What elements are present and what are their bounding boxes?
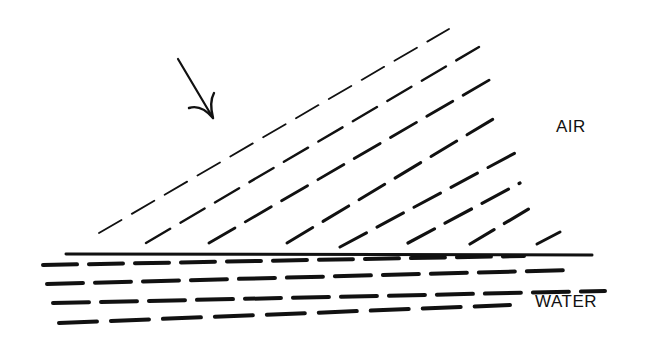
water-wavefront-4 [59,305,510,323]
incident-arrow-icon [178,59,214,118]
water-wavefront-1 [43,256,524,265]
air-wavefront-3 [209,79,491,243]
air-wavefront-8 [537,232,560,244]
air-wavefront-1 [99,29,449,233]
water-wavefront-2 [47,270,571,284]
air-wavefront-6 [408,183,520,243]
water-wavefront-3 [53,291,605,303]
refraction-diagram [0,0,651,342]
air-wavefront-2 [146,47,479,243]
air-label: AIR [556,118,586,135]
water-label: WATER [535,293,597,310]
water-wavefronts [43,256,605,323]
air-wavefront-7 [470,204,537,244]
arrow-shaft [178,59,213,118]
air-wavefronts [99,29,560,247]
air-water-interface-line [66,254,592,255]
